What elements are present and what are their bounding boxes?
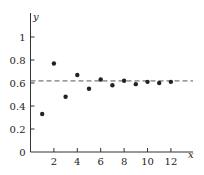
data-point [75,73,79,77]
data-point [145,80,149,84]
x-tick-label: 8 [121,156,127,167]
y-axis-label: y [32,11,39,22]
data-point [52,61,56,65]
data-point [87,87,91,91]
data-point [157,81,161,85]
y-tick-label: 1 [19,32,25,43]
data-points [40,61,173,116]
y-tick-label: 0 [19,147,25,158]
x-tick-label: 4 [74,156,80,167]
data-point [134,82,138,86]
axes [31,13,194,152]
y-tick-label: 0.4 [10,101,26,112]
data-point [63,95,67,99]
x-axis-label: x [188,149,194,160]
x-tick-label: 6 [98,156,104,167]
y-tick-label: 0.2 [10,124,26,135]
data-point [99,77,103,81]
y-tick-label: 0.8 [10,55,26,66]
data-point [169,80,173,84]
scatter-chart: 2468101200.20.40.60.81 x y [0,0,204,175]
x-tick-label: 12 [165,156,178,167]
data-point [122,79,126,83]
x-tick-label: 10 [141,156,154,167]
data-point [110,83,114,87]
x-tick-label: 2 [51,156,57,167]
ticks: 2468101200.20.40.60.81 [10,32,178,168]
data-point [40,112,44,116]
y-tick-label: 0.6 [10,78,26,89]
